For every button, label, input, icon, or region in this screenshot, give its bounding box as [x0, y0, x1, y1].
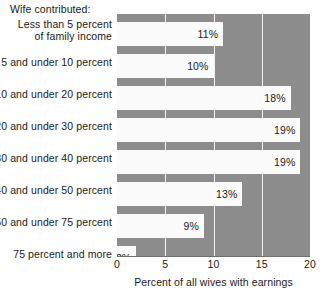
category-label-column: Less than 5 percent of family income 5 a… — [0, 14, 113, 270]
plot-area: 11%10%18%19%19%13%9%2% — [117, 14, 310, 256]
bar-value-label: 19% — [274, 124, 295, 136]
bar-value-label: 18% — [264, 92, 285, 104]
bar: 13% — [117, 182, 242, 206]
category-label-line: 20 and under 30 percent — [0, 120, 112, 133]
bar-row: 11% — [117, 14, 310, 46]
bar: 10% — [117, 54, 214, 78]
bar: 19% — [117, 150, 300, 174]
bar: 2% — [117, 246, 136, 256]
category-label-line: 10 and under 20 percent — [0, 88, 112, 101]
bar-row: 19% — [117, 142, 310, 174]
category-label: 20 and under 30 percent — [0, 110, 113, 142]
bar: 19% — [117, 118, 300, 142]
bar-value-label: 13% — [216, 188, 237, 200]
bar: 9% — [117, 214, 204, 238]
bar-row: 2% — [117, 238, 310, 256]
category-label: 30 and under 40 percent — [0, 142, 113, 174]
bar-row: 10% — [117, 46, 310, 78]
bar-value-label: 10% — [187, 60, 208, 72]
x-axis-title: Percent of all wives with earnings — [117, 276, 310, 288]
category-label-line: 50 and under 75 percent — [0, 216, 112, 229]
x-axis-line — [117, 256, 310, 257]
bar-value-label: 19% — [274, 156, 295, 168]
bar-row: 18% — [117, 78, 310, 110]
category-label: 40 and under 50 percent — [0, 174, 113, 206]
x-tick-label: 5 — [162, 258, 168, 270]
x-tick-label: 15 — [256, 258, 268, 270]
category-label-line: 40 and under 50 percent — [0, 184, 112, 197]
bar-rows: 11%10%18%19%19%13%9%2% — [117, 14, 310, 256]
bar-row: 19% — [117, 110, 310, 142]
bar-value-label: 9% — [183, 220, 198, 232]
bar-row: 9% — [117, 206, 310, 238]
category-label-line: Less than 5 percent — [18, 18, 112, 31]
category-label-line: 75 percent and more — [13, 248, 112, 261]
category-label: 10 and under 20 percent — [0, 78, 113, 110]
bar: 18% — [117, 86, 291, 110]
x-axis-ticks: 05101520 — [117, 258, 310, 272]
category-label: 5 and under 10 percent — [0, 46, 113, 78]
category-label-line: 30 and under 40 percent — [0, 152, 112, 165]
category-label-line: of family income — [35, 30, 112, 43]
category-label: 75 percent and more — [0, 238, 113, 270]
category-label-line: 5 and under 10 percent — [1, 56, 112, 69]
x-tick-label: 20 — [304, 258, 316, 270]
bar-value-label: 11% — [198, 28, 219, 40]
bar: 11% — [117, 22, 223, 46]
bar-row: 13% — [117, 174, 310, 206]
category-label: Less than 5 percent of family income — [0, 14, 113, 46]
x-tick-label: 10 — [208, 258, 220, 270]
x-tick-label: 0 — [114, 258, 120, 270]
bar-chart: Wife contributed: Less than 5 percent of… — [0, 0, 330, 292]
category-label: 50 and under 75 percent — [0, 206, 113, 238]
